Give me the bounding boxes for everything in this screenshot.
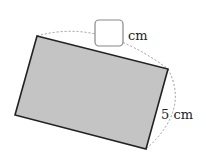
width-label: 5 cm: [161, 107, 193, 122]
length-unit-label: cm: [128, 28, 148, 43]
answer-box[interactable]: [95, 20, 123, 46]
shaded-rectangle: [15, 36, 168, 149]
rectangle-diagram: cm 5 cm: [0, 0, 206, 168]
